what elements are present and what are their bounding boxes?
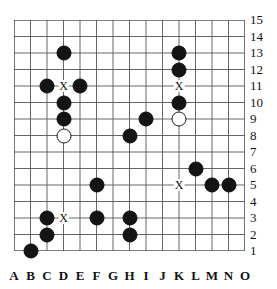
white-stone-K9 <box>172 112 187 127</box>
column-label-N: N <box>224 268 233 283</box>
black-stone-D10 <box>56 95 71 110</box>
white-stone-D8 <box>56 128 71 143</box>
column-label-K: K <box>174 268 184 283</box>
column-label-A: A <box>9 268 18 283</box>
row-label-8: 8 <box>250 129 257 143</box>
x-marker-K11: X <box>174 80 185 92</box>
column-label-D: D <box>59 268 68 283</box>
black-stone-K13 <box>172 46 187 61</box>
x-marker-D11: X <box>58 80 69 92</box>
row-label-1: 1 <box>250 244 257 258</box>
column-label-E: E <box>76 268 85 283</box>
row-label-7: 7 <box>250 145 257 159</box>
row-label-12: 12 <box>250 63 263 77</box>
black-stone-D9 <box>56 112 71 127</box>
black-stone-C2 <box>40 227 55 242</box>
column-label-G: G <box>108 268 118 283</box>
black-stone-H3 <box>122 211 137 226</box>
black-stone-K12 <box>172 62 187 77</box>
black-stone-C11 <box>40 79 55 94</box>
row-label-2: 2 <box>250 228 257 242</box>
column-label-L: L <box>191 268 200 283</box>
black-stone-I9 <box>139 112 154 127</box>
row-label-4: 4 <box>250 195 257 209</box>
black-stone-D13 <box>56 46 71 61</box>
column-label-J: J <box>159 268 166 283</box>
column-label-C: C <box>42 268 51 283</box>
black-stone-C3 <box>40 211 55 226</box>
x-marker-K5: X <box>174 179 185 191</box>
column-label-O: O <box>240 268 250 283</box>
black-stone-E11 <box>73 79 88 94</box>
x-marker-D3: X <box>58 212 69 224</box>
black-stone-L6 <box>188 161 203 176</box>
row-label-11: 11 <box>250 79 263 93</box>
black-stone-H2 <box>122 227 137 242</box>
goban-grid: XXXX <box>14 20 245 251</box>
black-stone-M5 <box>205 178 220 193</box>
row-label-10: 10 <box>250 96 263 110</box>
black-stone-K10 <box>172 95 187 110</box>
row-label-6: 6 <box>250 162 257 176</box>
row-label-15: 15 <box>250 13 263 27</box>
column-label-B: B <box>26 268 35 283</box>
column-label-H: H <box>124 268 134 283</box>
row-label-9: 9 <box>250 112 257 126</box>
black-stone-B1 <box>23 244 38 259</box>
black-stone-N5 <box>221 178 236 193</box>
column-label-F: F <box>93 268 101 283</box>
row-label-13: 13 <box>250 46 263 60</box>
black-stone-H8 <box>122 128 137 143</box>
go-board-figure: XXXX ABCDEFGHIJKLMNO 1514131211109876543… <box>0 0 277 289</box>
row-label-3: 3 <box>250 211 257 225</box>
black-stone-F3 <box>89 211 104 226</box>
black-stone-F5 <box>89 178 104 193</box>
column-label-M: M <box>206 268 218 283</box>
column-label-I: I <box>143 268 148 283</box>
row-label-5: 5 <box>250 178 257 192</box>
row-label-14: 14 <box>250 30 263 44</box>
